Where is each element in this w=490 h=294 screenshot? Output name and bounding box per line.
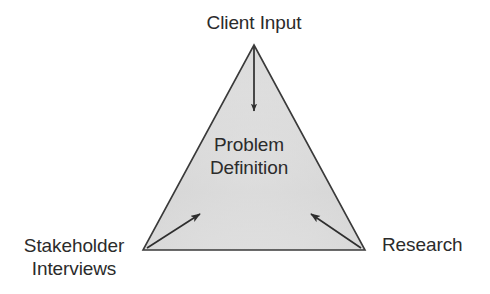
diagram-canvas: Client Input Problem Definition Stakehol… [0,0,490,294]
center-label-line-1: Problem [214,134,284,155]
vertex-label-research: Research [382,234,463,256]
vertex-label-line-1: Stakeholder [24,235,124,256]
center-label-line-2: Definition [210,157,288,178]
vertex-label-client-input: Client Input [0,12,490,34]
center-label-problem-definition: Problem Definition [0,133,490,179]
vertex-label-line-2: Interviews [8,257,140,280]
vertex-label-stakeholder-interviews: Stakeholder Interviews [8,234,140,280]
